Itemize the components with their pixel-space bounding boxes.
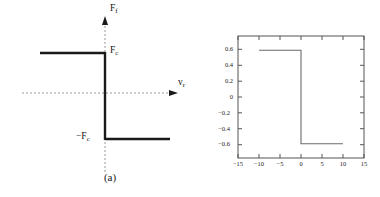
x-tick-label-1: −10 [248, 161, 270, 168]
figure-container: Ff Fc −Fc vr (a) [0, 0, 380, 197]
x-tick-label-2: −5 [269, 161, 291, 168]
level-label-Fc: Fc [110, 46, 118, 56]
y-tick-label-5: −0.4 [208, 126, 230, 133]
level-label-negative-Fc: −Fc [76, 132, 90, 142]
horizontal-axis-arrowhead [169, 90, 178, 96]
x-tick-label-3: 0 [290, 161, 312, 168]
caption-a: (a) [90, 172, 130, 183]
x-tick-label-5: 10 [332, 161, 354, 168]
y-tick-label-2: 0.2 [211, 78, 233, 85]
vertical-axis-arrowhead [102, 16, 108, 25]
y-tick-label-3: 0 [211, 94, 233, 101]
x-tick-label-0: −15 [227, 161, 249, 168]
x-tick-label-4: 5 [311, 161, 333, 168]
y-axis-label-Ff: Ff [110, 4, 118, 14]
panel-a-svg [0, 0, 190, 197]
panel-b-plot: 0.6 0.4 0.2 0 −0.2 −0.4 −0.6 −15 −10 −5 … [190, 0, 380, 197]
y-tick-label-1: 0.4 [211, 62, 233, 69]
x-axis-label-vr: vr [178, 78, 185, 88]
panel-a-schematic: Ff Fc −Fc vr (a) [0, 0, 190, 197]
y-tick-label-4: −0.2 [208, 110, 230, 117]
x-tick-label-6: 15 [353, 161, 375, 168]
y-tick-label-0: 0.6 [211, 46, 233, 53]
data-series-coulomb-friction [259, 50, 343, 143]
y-tick-label-6: −0.6 [208, 141, 230, 148]
